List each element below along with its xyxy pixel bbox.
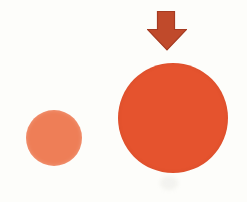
down-arrow-icon bbox=[147, 11, 187, 51]
large-circle bbox=[118, 63, 228, 173]
scan-smudge bbox=[160, 176, 178, 190]
small-circle bbox=[26, 110, 82, 166]
figure-canvas bbox=[0, 0, 247, 202]
down-arrow-shape bbox=[148, 12, 187, 51]
